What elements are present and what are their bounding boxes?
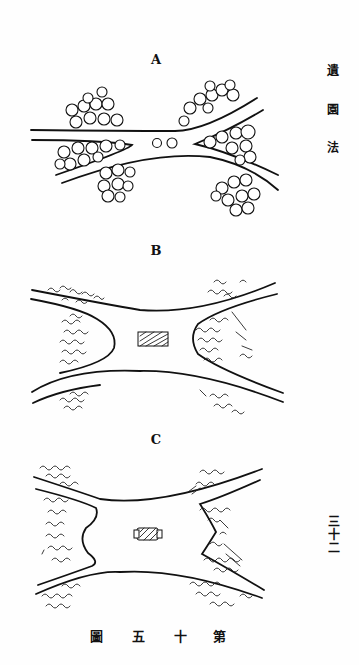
document-page: A bbox=[0, 0, 359, 665]
central-monument bbox=[134, 528, 162, 540]
side-title-char: 遺 bbox=[326, 65, 340, 77]
side-title-char: 園 bbox=[326, 104, 340, 116]
caption-char: 圖 bbox=[88, 630, 104, 643]
tree-cluster bbox=[179, 80, 239, 126]
figure-b-diagram bbox=[0, 220, 359, 420]
tree-cluster bbox=[211, 174, 260, 216]
central-monument bbox=[138, 332, 168, 346]
caption-char: 五 bbox=[130, 630, 146, 643]
tree-cluster bbox=[204, 125, 256, 165]
page-number-char: 十 bbox=[327, 529, 341, 541]
caption-char: 第 bbox=[211, 630, 227, 643]
tree-cluster bbox=[98, 164, 135, 202]
foliage-scribbles bbox=[48, 280, 252, 414]
figure-a-diagram bbox=[0, 0, 359, 220]
caption-char: 十 bbox=[172, 630, 188, 643]
page-number-char: 二 bbox=[327, 542, 341, 554]
page-number-char: 三 bbox=[327, 516, 341, 528]
tree-cluster bbox=[66, 87, 123, 128]
side-title-char: 法 bbox=[326, 142, 340, 154]
